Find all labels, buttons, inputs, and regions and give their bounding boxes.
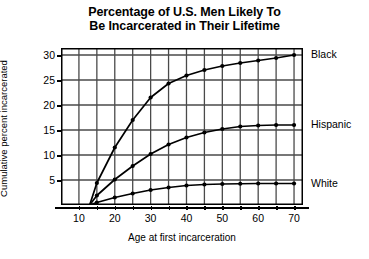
x-tick-label-50: 50 <box>208 213 236 223</box>
series-hispanic <box>90 123 296 205</box>
chart-svg <box>61 48 303 205</box>
y-axis-label: Cumulative percent incarcerated <box>0 0 9 50</box>
series-label-black: Black <box>311 49 337 60</box>
plot-area <box>61 48 303 205</box>
chart-title-line-1: Percentage of U.S. Men Likely To <box>0 5 369 19</box>
x-axis-line <box>55 207 309 209</box>
y-tick-label-5: 5 <box>29 175 55 185</box>
series-white <box>90 181 296 205</box>
y-tick-label-10: 10 <box>29 150 55 160</box>
y-tick-label-15: 15 <box>29 125 55 135</box>
x-tick-label-40: 40 <box>172 213 200 223</box>
x-tick-label-60: 60 <box>244 213 272 223</box>
x-tick-label-70: 70 <box>280 213 308 223</box>
chart-figure: Percentage of U.S. Men Likely To Be Inca… <box>0 0 369 259</box>
x-tick-label-10: 10 <box>65 213 93 223</box>
series-black <box>90 53 296 205</box>
x-axis-label: Age at first incarceration <box>61 232 303 243</box>
x-tick-label-30: 30 <box>137 213 165 223</box>
x-tick-label-20: 20 <box>101 213 129 223</box>
chart-title: Percentage of U.S. Men Likely To Be Inca… <box>0 5 369 33</box>
y-tick-label-30: 30 <box>29 50 55 60</box>
y-tick-label-25: 25 <box>29 75 55 85</box>
series-label-white: White <box>311 178 338 189</box>
y-tick-label-20: 20 <box>29 100 55 110</box>
chart-title-line-2: Be Incarcerated in Their Lifetime <box>0 19 369 33</box>
series-label-hispanic: Hispanic <box>311 119 351 130</box>
